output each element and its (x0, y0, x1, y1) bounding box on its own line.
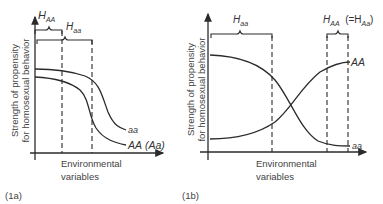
curve-label-AA-1b: AA (351, 57, 365, 67)
x-axis-label-1b: Environmental variables (256, 157, 317, 183)
curve-AA-1b (210, 62, 350, 139)
curve-label-AA-1a: AA (Aa) (128, 140, 165, 150)
panel-1a-curves (35, 69, 126, 145)
curve-aa-1b (210, 55, 350, 146)
panel-1b-braces (211, 31, 348, 38)
brace-h-AA-1b (327, 31, 348, 38)
brace-h-aa-lower (37, 37, 92, 44)
x-axis-label-1a: Environmental variables (61, 157, 122, 183)
panel-1a-braces (35, 27, 92, 44)
brace-h-aa-1b (211, 31, 272, 38)
curve-label-aa-1b: aa (352, 141, 362, 151)
curve-label-aa-1a: aa (128, 125, 138, 135)
label-h-AA-1b: HAA (=HAa) (323, 15, 373, 29)
label-h-AA-1a: HAA (38, 10, 55, 25)
label-h-aa-1b: Haa (233, 15, 248, 29)
y-axis-label-1a: Strength of propensity for homosexual be… (9, 23, 31, 158)
panel-1b-curves (210, 55, 350, 146)
y-axis-label-1b: Strength of propensity for homosexual be… (185, 22, 207, 157)
curve-AA-1a (35, 77, 126, 145)
panel-1a-dashed-lines (62, 31, 92, 153)
panel-label-1b: (1b) (182, 190, 199, 201)
label-h-aa-1a: Haa (66, 22, 81, 36)
brace-h-aa-upper (35, 27, 62, 34)
panel-label-1a: (1a) (5, 190, 22, 201)
